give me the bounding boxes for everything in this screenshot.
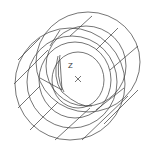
wireframe-bushing: Z [0, 0, 148, 150]
center-marker-icon [75, 76, 81, 82]
back-rings [36, 12, 140, 112]
ucs-z-label: Z [68, 62, 73, 70]
drawing-canvas: Z [0, 0, 148, 150]
front-rings [15, 28, 125, 140]
generator-lines [14, 16, 138, 140]
